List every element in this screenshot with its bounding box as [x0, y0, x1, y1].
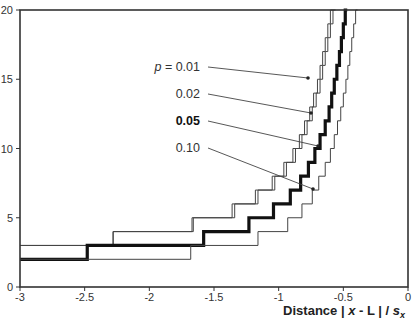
- annotation-label: 0.10: [176, 141, 200, 155]
- leader-line: [208, 148, 313, 189]
- annotation-label: 0.02: [176, 87, 200, 101]
- y-tick-label: 15: [1, 73, 13, 85]
- leader-line: [208, 121, 318, 146]
- x-tick-label: 0: [405, 291, 411, 303]
- y-axis: 05101520: [1, 4, 20, 293]
- x-axis: -3-2.5-2-1.5-1-0.50: [15, 287, 411, 303]
- x-tick-label: -2: [144, 291, 154, 303]
- leader-line: [208, 94, 311, 113]
- series-layer: [20, 10, 358, 259]
- x-tick-label: -3: [15, 291, 25, 303]
- annotation-label: 0.05: [176, 114, 200, 128]
- x-tick-label: -1.5: [205, 291, 224, 303]
- x-tick-label: -1: [274, 291, 284, 303]
- y-tick-label: 20: [1, 4, 13, 16]
- series-0-05: [20, 10, 347, 259]
- leader-arrowhead-icon: [306, 76, 310, 80]
- x-axis-label: Distance | x - L | / sx: [283, 303, 406, 320]
- y-tick-label: 5: [7, 212, 13, 224]
- x-tick-label: -0.5: [334, 291, 353, 303]
- leader-arrowhead-icon: [311, 187, 315, 191]
- annotation-layer: p = 0.010.020.050.10: [153, 60, 319, 191]
- y-tick-label: 0: [7, 281, 13, 293]
- leader-line: [208, 67, 308, 78]
- leader-arrowhead-icon: [309, 111, 313, 115]
- x-tick-label: -2.5: [75, 291, 94, 303]
- leader-arrowhead-icon: [316, 144, 320, 148]
- annotation-label: p = 0.01: [153, 60, 200, 74]
- step-chart: p = 0.010.020.050.10 -3-2.5-2-1.5-1-0.50…: [0, 0, 412, 321]
- y-tick-label: 10: [1, 143, 13, 155]
